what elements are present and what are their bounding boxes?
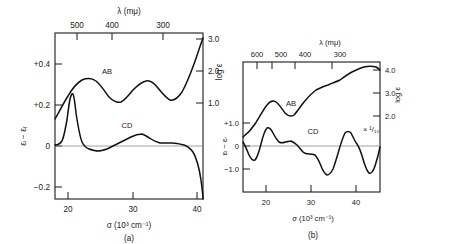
chart-panel-a: λ (mμ) 500 400 300 bbox=[0, 0, 225, 244]
chart-a-bottom-tick-20: 20 bbox=[63, 205, 73, 214]
chart-b-top-axis-title: λ (mμ) bbox=[319, 38, 341, 47]
chart-b-annotation-scale: × ¹/₁₀ bbox=[363, 125, 379, 134]
chart-a-panel-label: (a) bbox=[124, 234, 134, 243]
chart-b-top-tick-300: 300 bbox=[334, 50, 347, 59]
chart-b-label-ab: AB bbox=[286, 99, 296, 108]
chart-panel-b: λ (mμ) 600 500 400 300 bbox=[225, 0, 450, 244]
chart-b-svg: λ (mμ) 600 500 400 300 bbox=[225, 0, 450, 244]
chart-b-top-tick-500: 500 bbox=[275, 50, 288, 59]
chart-b-bottom-tick-30: 30 bbox=[307, 198, 315, 207]
chart-b-top-tick-400: 400 bbox=[299, 50, 312, 59]
chart-b-right-tick-20: 2.0 bbox=[385, 112, 396, 121]
chart-b-label-cd: CD bbox=[308, 127, 319, 136]
chart-a-top-tick-300: 300 bbox=[156, 21, 170, 30]
chart-b-left-tick-0: 0 bbox=[235, 142, 239, 151]
chart-b-left-tick-minus10: −1.0 bbox=[224, 165, 239, 174]
chart-a-left-tick-02: +0.2 bbox=[34, 101, 51, 110]
chart-a-bottom-tick-30: 30 bbox=[128, 205, 138, 214]
chart-b-top-tick-600: 600 bbox=[251, 50, 264, 59]
chart-a-right-tick-30: 3.0 bbox=[208, 35, 220, 44]
chart-a-svg: λ (mμ) 500 400 300 bbox=[0, 0, 225, 244]
chart-a-top-tick-400: 400 bbox=[105, 21, 119, 30]
chart-a-right-tick-10: 1.0 bbox=[208, 99, 220, 108]
figure-container: λ (mμ) 500 400 300 bbox=[0, 0, 450, 244]
chart-b-bottom-tick-20: 20 bbox=[262, 198, 270, 207]
chart-b-bottom-axis-title: σ (10³ cm⁻¹) bbox=[292, 214, 334, 223]
chart-a-label-cd: CD bbox=[122, 121, 133, 130]
chart-a-top-axis-title: λ (mμ) bbox=[117, 7, 141, 16]
chart-a-left-tick-04: +0.4 bbox=[34, 60, 51, 69]
chart-a-left-tick-minus02: −0.2 bbox=[34, 183, 51, 192]
chart-a-bottom-tick-40: 40 bbox=[192, 205, 202, 214]
chart-a-label-ab: AB bbox=[102, 67, 112, 76]
chart-b-left-axis-title: εₗ − εᵣ bbox=[220, 137, 229, 155]
chart-a-top-tick-500: 500 bbox=[70, 21, 84, 30]
chart-a-left-tick-0: 0 bbox=[45, 142, 50, 151]
chart-a-bottom-axis-title: σ (10³ cm⁻¹) bbox=[107, 221, 152, 230]
chart-a-right-axis-title: log ε bbox=[215, 63, 224, 80]
chart-b-right-axis-title: log ε bbox=[393, 87, 402, 103]
chart-a-curve-ab bbox=[55, 38, 203, 119]
chart-b-right-tick-40: 4.0 bbox=[385, 66, 396, 75]
chart-a-left-axis-title: εₗ − εᵣ bbox=[19, 126, 28, 146]
chart-b-left-tick-10: +1.0 bbox=[224, 119, 239, 128]
chart-b-bottom-tick-40: 40 bbox=[352, 198, 360, 207]
chart-b-panel-label: (b) bbox=[308, 231, 318, 240]
